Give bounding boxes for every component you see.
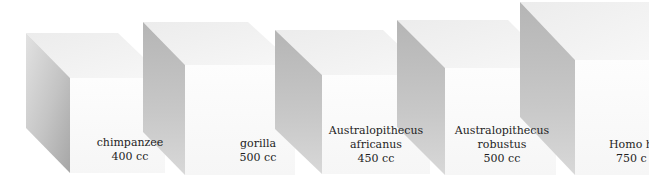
cube-label-gorilla: gorilla 500 cc [228,137,288,165]
cube-label-australopithecus-robustus: Australopithecus robustus 500 cc [452,124,552,166]
cube-diagram: chimpanzee 400 cc gorilla 500 cc Austral… [0,0,649,192]
species-name: Homo ha [609,138,649,152]
species-name: chimpanzee [90,136,170,150]
brain-volume: 500 cc [452,152,552,166]
species-name: gorilla [228,137,288,151]
cube-label-chimpanzee: chimpanzee 400 cc [90,136,170,164]
brain-volume: 500 cc [228,151,288,165]
brain-volume: 400 cc [90,150,170,164]
cube-label-homo-habilis: Homo ha 750 c [609,138,649,166]
species-name-line2: africanus [326,138,426,152]
species-name-line1: Australopithecus [326,124,426,138]
brain-volume: 450 cc [326,152,426,166]
species-name-line2: robustus [452,138,552,152]
cube-label-australopithecus-africanus: Australopithecus africanus 450 cc [326,124,426,166]
species-name-line1: Australopithecus [452,124,552,138]
brain-volume: 750 c [609,152,649,166]
